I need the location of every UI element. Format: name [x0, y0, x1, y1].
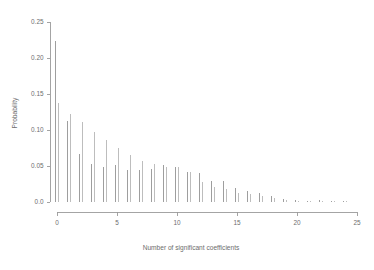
y-tick-label: 0.0: [35, 198, 44, 205]
chart-figure: 0.00.050.100.150.200.25 0510152025 Numbe…: [0, 0, 374, 270]
y-axis-title: Probability: [11, 97, 19, 128]
y-axis: 0.00.050.100.150.200.25: [31, 18, 50, 205]
x-tick-label: 20: [293, 219, 301, 226]
x-tick-label: 10: [173, 219, 181, 226]
plot-bars: [56, 41, 346, 202]
x-tick-label: 15: [233, 219, 241, 226]
probability-distribution-chart: 0.00.050.100.150.200.25 0510152025 Numbe…: [0, 0, 374, 270]
y-tick-label: 0.20: [31, 54, 44, 61]
x-tick-label: 25: [353, 219, 361, 226]
y-tick-label: 0.15: [31, 90, 44, 97]
y-tick-label: 0.10: [31, 126, 44, 133]
x-axis: 0510152025: [55, 212, 361, 226]
y-tick-label: 0.25: [31, 18, 44, 25]
x-tick-label: 5: [115, 219, 119, 226]
x-tick-label: 0: [55, 219, 59, 226]
y-tick-label: 0.05: [31, 162, 44, 169]
x-axis-title: Number of significant coefficients: [143, 244, 240, 252]
